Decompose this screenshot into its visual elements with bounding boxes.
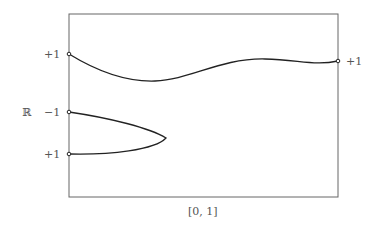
label-left-plus1-top: +1 bbox=[44, 48, 60, 61]
endpoint-right-top bbox=[336, 59, 340, 63]
endpoint-left-bottom bbox=[67, 152, 71, 156]
label-left-minus1: −1 bbox=[44, 106, 60, 119]
frame bbox=[69, 14, 338, 197]
top-curve bbox=[69, 54, 338, 81]
cobordism-diagram: +1 −1 +1 +1 ℝ [0, 1] bbox=[0, 0, 382, 227]
interval-label: [0, 1] bbox=[188, 205, 218, 218]
space-label: ℝ bbox=[22, 106, 32, 119]
endpoint-left-minus bbox=[67, 110, 71, 114]
label-left-plus1-bottom: +1 bbox=[44, 148, 60, 161]
endpoint-left-top bbox=[67, 52, 71, 56]
lower-arc-curve bbox=[69, 112, 166, 154]
label-right-plus1: +1 bbox=[346, 55, 362, 68]
